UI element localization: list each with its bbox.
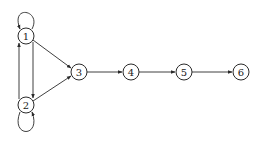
edge-1-1-self-loop — [18, 12, 34, 29]
edge-1-to-3 — [33, 40, 71, 68]
edge-2-2-self-loop — [18, 112, 34, 132]
node-2: 2 — [18, 97, 34, 113]
node-4: 4 — [123, 64, 139, 80]
node-6-label: 6 — [238, 67, 244, 78]
node-1-label: 1 — [23, 31, 29, 42]
node-3-label: 3 — [76, 67, 82, 78]
graph-canvas: 1 2 3 4 5 6 — [0, 0, 262, 142]
node-2-label: 2 — [23, 100, 29, 111]
node-6: 6 — [233, 64, 249, 80]
node-3: 3 — [71, 64, 87, 80]
node-1: 1 — [18, 28, 34, 44]
node-4-label: 4 — [128, 67, 134, 78]
node-5: 5 — [176, 64, 192, 80]
node-5-label: 5 — [181, 67, 187, 78]
edge-2-to-3 — [33, 76, 71, 101]
